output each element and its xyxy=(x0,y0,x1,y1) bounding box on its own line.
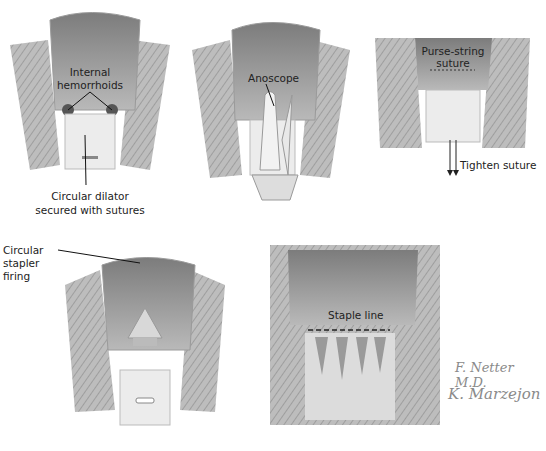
label-purse-string: Purse-string xyxy=(410,45,496,57)
label-staple-line: Staple line xyxy=(328,309,384,321)
label-circular: Circular xyxy=(3,244,43,256)
label-secured-sutures: secured with sutures xyxy=(20,204,160,216)
panel-purse-string: Purse-string suture Tighten suture xyxy=(360,0,546,230)
signature-marzejon: K. Marzejon xyxy=(448,385,540,403)
label-internal: Internal xyxy=(60,66,120,78)
label-circular-dilator: Circular dilator xyxy=(20,190,160,202)
label-anoscope: Anoscope xyxy=(248,72,299,84)
label-tighten-suture: Tighten suture xyxy=(460,159,536,171)
anatomy-illustration xyxy=(180,0,360,230)
panel-anoscope: Anoscope xyxy=(180,0,360,230)
panel-dilator: Internal hemorrhoids Circular dilator se… xyxy=(0,0,180,230)
panel-stapler: Circular stapler firing xyxy=(0,230,260,451)
label-firing: firing xyxy=(3,270,30,282)
anatomy-illustration xyxy=(270,245,440,425)
anatomy-illustration xyxy=(360,0,546,230)
label-hemorrhoids: hemorrhoids xyxy=(55,79,125,91)
label-suture: suture xyxy=(410,57,496,69)
panel-staple-line: Staple line xyxy=(270,245,440,425)
label-stapler: stapler xyxy=(3,257,39,269)
